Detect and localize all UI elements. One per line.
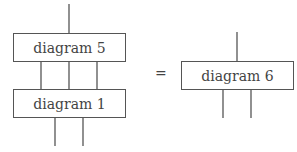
diagram-5-box: diagram 5 bbox=[13, 33, 126, 62]
equals-sign: = bbox=[155, 65, 167, 81]
diagram-1-box: diagram 1 bbox=[13, 89, 126, 118]
diagram-5-label: diagram 5 bbox=[33, 40, 105, 56]
diagram-6-box: diagram 6 bbox=[181, 61, 294, 90]
diagram-6-label: diagram 6 bbox=[201, 68, 273, 84]
diagram-1-label: diagram 1 bbox=[33, 96, 105, 112]
